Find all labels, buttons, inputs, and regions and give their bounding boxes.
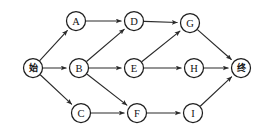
node-label-E: E xyxy=(131,63,137,74)
node-end[interactable]: 终 xyxy=(232,59,251,78)
node-label-I: I xyxy=(191,108,195,119)
node-H[interactable]: H xyxy=(185,59,204,78)
node-label-F: F xyxy=(134,108,140,119)
node-label-end: 终 xyxy=(236,62,247,73)
node-label-D: D xyxy=(130,16,138,27)
node-B[interactable]: B xyxy=(70,59,89,78)
edge-I-to-end xyxy=(201,77,232,106)
node-label-G: G xyxy=(186,18,194,29)
node-A[interactable]: A xyxy=(67,12,86,31)
node-D[interactable]: D xyxy=(125,12,144,31)
edge-B-to-F xyxy=(87,74,127,105)
node-label-B: B xyxy=(75,63,82,74)
node-start[interactable]: 始 xyxy=(24,59,43,78)
diagram-canvas: 始ABCDEFGHI终 xyxy=(0,0,271,135)
edge-G-to-end xyxy=(198,30,232,60)
edge-start-to-C xyxy=(41,75,72,104)
node-I[interactable]: I xyxy=(184,104,203,123)
node-label-start: 始 xyxy=(29,62,38,73)
node-layer: 始ABCDEFGHI终 xyxy=(24,12,251,123)
node-label-H: H xyxy=(190,63,198,74)
node-label-A: A xyxy=(72,16,80,27)
edge-start-to-A xyxy=(40,31,67,61)
node-F[interactable]: F xyxy=(128,104,147,123)
edge-E-to-G xyxy=(142,31,180,61)
node-E[interactable]: E xyxy=(125,59,144,78)
node-G[interactable]: G xyxy=(181,14,200,33)
edge-D-to-G xyxy=(144,21,177,22)
edge-B-to-D xyxy=(87,29,124,61)
node-C[interactable]: C xyxy=(72,104,91,123)
network-diagram: 始ABCDEFGHI终 xyxy=(0,0,271,135)
node-label-C: C xyxy=(77,108,84,119)
